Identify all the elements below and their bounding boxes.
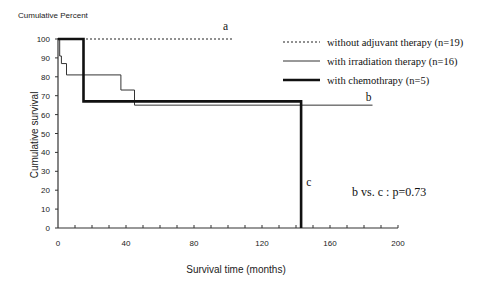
y-tick-label: 60 — [41, 111, 50, 120]
curve-label-a: a — [223, 20, 228, 32]
y-tick-label: 10 — [41, 205, 50, 214]
legend-label-a: without adjuvant therapy (n=19) — [327, 37, 464, 49]
x-tick-label: 120 — [255, 239, 269, 248]
legend-label-b: with irradiation therapy (n=16) — [327, 56, 458, 68]
x-tick-label: 160 — [323, 239, 337, 248]
survival-curve-b — [58, 39, 373, 105]
x-tick-label: 80 — [190, 239, 199, 248]
y-tick-label: 70 — [41, 92, 50, 101]
p-value-annotation: b vs. c : p=0.73 — [352, 185, 426, 199]
y-axis-title: Cumulative survival — [29, 92, 40, 179]
y-tick-label: 20 — [41, 186, 50, 195]
curve-label-c: c — [306, 176, 311, 188]
y-tick-label: 100 — [37, 35, 51, 44]
axes: 010203040506070809010004080120160200 — [37, 35, 406, 248]
survival-chart: Cumulative Percent Cumulative survival S… — [0, 0, 478, 288]
x-axis-title: Survival time (months) — [186, 264, 285, 275]
curve-label-b: b — [366, 91, 372, 103]
y-tick-label: 80 — [41, 73, 50, 82]
y-tick-label: 30 — [41, 167, 50, 176]
legend: without adjuvant therapy (n=19)with irra… — [283, 37, 464, 87]
legend-label-c: with chemothrapy (n=5) — [327, 75, 430, 87]
y-tick-label: 40 — [41, 148, 50, 157]
survival-curve-c — [58, 39, 301, 228]
y-tick-label: 0 — [46, 224, 51, 233]
x-tick-label: 40 — [122, 239, 131, 248]
y-tick-label: 50 — [41, 130, 50, 139]
x-tick-label: 0 — [56, 239, 61, 248]
curves — [58, 39, 373, 228]
top-axis-label: Cumulative Percent — [18, 11, 89, 20]
y-tick-label: 90 — [41, 54, 50, 63]
x-tick-label: 200 — [391, 239, 405, 248]
